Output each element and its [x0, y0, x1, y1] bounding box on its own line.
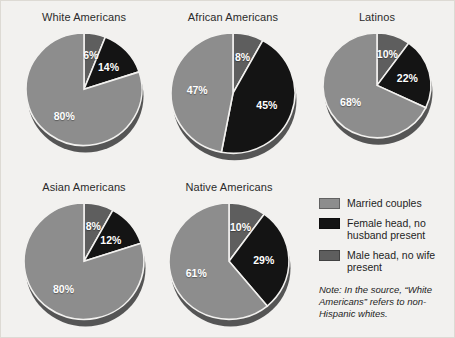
- pie-chart-white-americans: White Americans6%14%80%: [9, 11, 159, 161]
- source-note-text: Note: In the source, “White Americans” r…: [319, 284, 432, 319]
- pie-graphic: 8%12%80%: [9, 199, 159, 334]
- pie-title: White Americans: [9, 11, 159, 23]
- legend-item-male-head: Male head, no wife present: [319, 249, 451, 274]
- pie-graphic: 8%45%47%: [157, 29, 309, 168]
- pie-slice-label-male-head: 10%: [377, 48, 398, 60]
- pie-chart-figure: White Americans6%14%80%African Americans…: [0, 0, 455, 338]
- legend-swatch-female-head: [319, 218, 340, 229]
- pie-slice-label-female-head: 12%: [100, 234, 121, 246]
- pie-title: Latinos: [307, 11, 447, 23]
- pie-graphic: 10%29%61%: [153, 199, 305, 334]
- pie-chart-asian-americans: Asian Americans8%12%80%: [9, 181, 159, 334]
- pie-chart-native-americans: Native Americans10%29%61%: [153, 181, 305, 334]
- legend-item-married: Married couples: [319, 197, 451, 210]
- pie-slice-label-married: 61%: [186, 267, 207, 279]
- legend-swatch-male-head: [319, 250, 340, 261]
- pie-slice-label-female-head: 29%: [253, 254, 274, 266]
- source-note: Note: In the source, “White Americans” r…: [319, 284, 453, 320]
- pie-slice-label-male-head: 10%: [230, 221, 251, 233]
- legend-swatch-married: [319, 198, 340, 209]
- legend: Married couples Female head, no husband …: [319, 197, 451, 281]
- pie-chart-latinos: Latinos10%22%68%: [307, 11, 447, 153]
- pie-slice-label-female-head: 45%: [256, 99, 277, 111]
- pie-title: Native Americans: [153, 181, 305, 193]
- pie-slice-label-male-head: 6%: [83, 49, 98, 61]
- pie-slice-label-married: 80%: [54, 110, 75, 122]
- pie-graphic: 10%22%68%: [307, 29, 447, 153]
- pie-slice-label-male-head: 8%: [235, 51, 250, 63]
- legend-label-female-head: Female head, no husband present: [347, 217, 451, 242]
- pie-title: Asian Americans: [9, 181, 159, 193]
- legend-label-married: Married couples: [347, 197, 422, 210]
- legend-label-male-head: Male head, no wife present: [347, 249, 451, 274]
- pie-slice-label-female-head: 22%: [397, 72, 418, 84]
- pie-slice-label-female-head: 14%: [98, 61, 119, 73]
- pie-graphic: 6%14%80%: [9, 29, 159, 161]
- pie-title: African Americans: [157, 11, 309, 23]
- pie-chart-african-americans: African Americans8%45%47%: [157, 11, 309, 168]
- pie-slice-label-male-head: 8%: [86, 220, 101, 232]
- legend-item-female-head: Female head, no husband present: [319, 217, 451, 242]
- pie-slice-label-married: 47%: [187, 84, 208, 96]
- pie-slice-label-married: 80%: [53, 283, 74, 295]
- pie-slice-label-married: 68%: [340, 96, 361, 108]
